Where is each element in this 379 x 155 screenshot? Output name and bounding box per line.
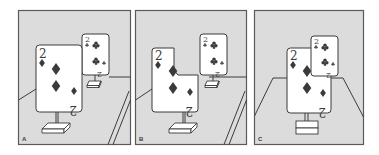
rank-label-inverted: 2 xyxy=(69,103,77,117)
small-card-two-of-clubs: 2 2 xyxy=(200,34,227,79)
small-card-two-of-clubs: 2 2 xyxy=(311,36,338,80)
rank-label: 2 xyxy=(155,49,163,63)
large-card-two-of-diamonds: 2 2 xyxy=(36,45,82,117)
rank-label: 2 xyxy=(290,49,298,63)
rank-label-inverted: 2 xyxy=(318,105,326,119)
rank-label: 2 xyxy=(314,37,319,46)
rank-label-inverted: 2 xyxy=(97,70,102,79)
rank-label-inverted: 2 xyxy=(215,70,220,79)
panel-a: 2 2 2 2 A xyxy=(19,11,131,145)
small-card-two-of-clubs: 2 2 xyxy=(82,34,109,79)
rank-label: 2 xyxy=(203,35,208,44)
card-depth-figure: 2 2 2 2 A xyxy=(0,0,379,155)
panel-b: 2 2 2 2 B xyxy=(136,11,247,145)
panel-c: 2 2 2 2 C xyxy=(255,11,364,145)
rank-label: 2 xyxy=(85,35,90,44)
rank-label-inverted: 2 xyxy=(326,71,331,80)
panel-label-a: A xyxy=(22,136,27,142)
panel-label-b: B xyxy=(139,136,144,142)
rank-label-inverted: 2 xyxy=(185,104,193,118)
rank-label: 2 xyxy=(39,47,47,61)
panel-label-c: C xyxy=(258,136,263,142)
